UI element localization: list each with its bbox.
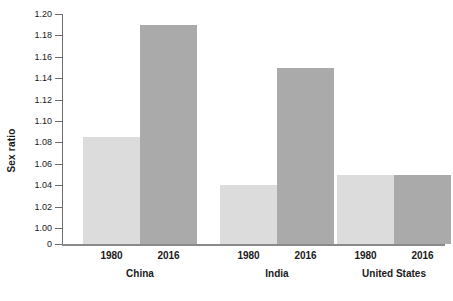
x-year-label: 2016: [294, 250, 316, 261]
x-group-label-united-states: United States: [362, 268, 426, 279]
y-tick-mark: [55, 14, 62, 15]
y-tick-label: 1.06: [12, 159, 52, 169]
y-tick-label: 1.20: [12, 9, 52, 19]
bar-china-2016: [140, 25, 197, 244]
sex-ratio-bar-chart: Sex ratio 1.201.181.161.141.121.101.081.…: [0, 0, 453, 301]
x-year-label: 1980: [237, 250, 259, 261]
y-tick-label: 1.08: [12, 137, 52, 147]
y-tick-mark: [55, 185, 62, 186]
y-axis-title: Sex ratio: [0, 0, 22, 301]
x-year-label: 2016: [157, 250, 179, 261]
y-tick-label: 1.04: [12, 180, 52, 190]
y-tick-label: 1.02: [12, 202, 52, 212]
x-year-label: 1980: [100, 250, 122, 261]
y-tick-mark: [55, 78, 62, 79]
y-tick-mark: [55, 35, 62, 36]
y-tick-mark-zero: [55, 244, 62, 245]
bar-india-1980: [220, 185, 277, 244]
y-tick-label: 1.00: [12, 223, 52, 233]
y-tick-mark: [55, 121, 62, 122]
bar-united-states-2016: [394, 175, 451, 245]
y-tick-mark: [55, 57, 62, 58]
bar-united-states-1980: [337, 175, 394, 245]
y-tick-mark: [55, 142, 62, 143]
y-tick-label: 1.14: [12, 73, 52, 83]
x-year-label: 2016: [411, 250, 433, 261]
y-tick-label-zero: 0: [12, 239, 52, 249]
x-year-label: 1980: [354, 250, 376, 261]
x-group-label-china: China: [126, 268, 154, 279]
y-tick-label: 1.16: [12, 52, 52, 62]
y-tick-mark: [55, 100, 62, 101]
x-axis-line: [62, 244, 445, 246]
y-tick-label: 1.18: [12, 30, 52, 40]
y-tick-label: 1.10: [12, 116, 52, 126]
bar-india-2016: [277, 68, 334, 245]
y-axis-line: [62, 14, 63, 244]
y-tick-mark: [55, 207, 62, 208]
y-tick-mark: [55, 228, 62, 229]
x-group-label-india: India: [265, 268, 288, 279]
bar-china-1980: [83, 137, 140, 244]
y-tick-mark: [55, 164, 62, 165]
y-tick-label: 1.12: [12, 95, 52, 105]
